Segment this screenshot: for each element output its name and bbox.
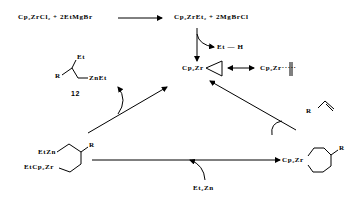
intermediate-zr-label: EtCp₂Zr xyxy=(24,164,54,171)
reaction-arrows-and-bonds xyxy=(0,0,364,202)
product-et-label: Et xyxy=(77,54,85,61)
zirconacyclopropane-label: Cp₂Zr xyxy=(182,65,204,72)
byproduct-ethane: Et — H xyxy=(217,44,244,51)
alkene-substituent: R xyxy=(306,108,312,115)
product-znet-label: ZnEt xyxy=(89,75,107,82)
intermediate-zn-label: EtZn xyxy=(38,149,56,156)
product-r-label: R xyxy=(55,73,61,80)
diethylzinc-label: Et₂Zn xyxy=(193,185,214,192)
zirconacyclopentane-label: Cp₂Zr xyxy=(282,157,304,164)
step1-reactants: Cp₂ZrCl₂ + 2EtMgBr xyxy=(18,14,93,21)
intermediate-substituent: R xyxy=(89,142,95,149)
step1-products: Cp₂ZrEt₂ + 2MgBrCl xyxy=(174,14,249,21)
product-number-label: 12 xyxy=(71,90,80,97)
zirconacyclopentane-substituent: R xyxy=(339,145,345,152)
alkene-complex-label: Cp₂Zr····· xyxy=(260,65,297,72)
reaction-scheme: Cp₂ZrCl₂ + 2EtMgBr Cp₂ZrEt₂ + 2MgBrCl Et… xyxy=(0,0,364,202)
